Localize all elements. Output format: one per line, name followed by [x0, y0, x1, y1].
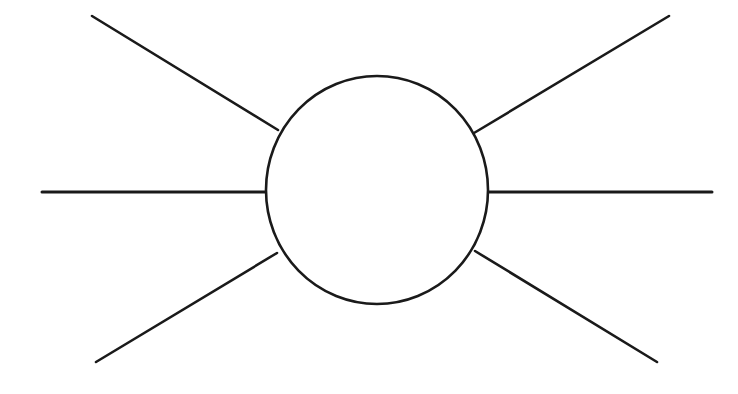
lower-right-leg [475, 251, 657, 362]
upper-right-leg [474, 16, 669, 133]
lower-left-leg [96, 253, 277, 362]
diagram-svg [0, 0, 738, 394]
central-blob [266, 76, 488, 304]
upper-left-leg [92, 16, 278, 130]
diagram-canvas [0, 0, 738, 394]
